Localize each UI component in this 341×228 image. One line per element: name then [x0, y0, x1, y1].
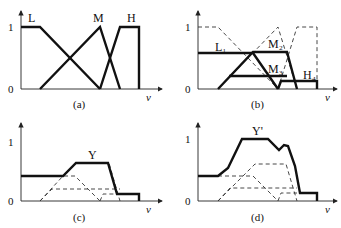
panel-c: 1 0 v Y (c) — [8, 123, 162, 224]
label-L: L — [28, 11, 35, 25]
tick-one: 1 — [185, 133, 191, 145]
aggregated-Y-prime — [198, 139, 317, 201]
panel-b: 1 0 v L₁ M₂ M₃ H₄ (b) — [185, 11, 337, 111]
axis-label-v: v — [146, 203, 151, 215]
component-H4-dashed — [278, 193, 297, 201]
label-M3: M₃ — [268, 62, 283, 76]
component-L1-dashed — [40, 176, 100, 201]
membership-L — [21, 27, 100, 89]
label-M: M — [93, 11, 104, 25]
axis-label-v: v — [325, 203, 330, 215]
component-L1-dashed — [218, 176, 278, 201]
component-M3-dashed — [40, 189, 120, 201]
caption-b: (b) — [251, 98, 264, 111]
caption-d: (d) — [251, 211, 264, 224]
caption-a: (a) — [73, 98, 86, 111]
tick-one: 1 — [8, 21, 14, 33]
tick-one: 1 — [8, 136, 14, 148]
clipped-L1 — [198, 53, 278, 89]
label-M2: M₂ — [268, 37, 283, 51]
tick-zero: 0 — [185, 83, 191, 95]
caption-c: (c) — [73, 211, 86, 224]
fuzzy-membership-figure: 1 0 v L M H (a) 1 0 v L₁ M₂ M₃ H₄ (b) — [0, 0, 341, 228]
tick-one: 1 — [185, 21, 191, 33]
label-H4: H₄ — [303, 68, 316, 82]
panel-a: 1 0 v L M H (a) — [8, 11, 162, 111]
tick-zero: 0 — [185, 195, 191, 207]
panel-d: 1 0 v Y' (d) — [185, 123, 337, 224]
axis-label-v: v — [325, 91, 330, 103]
label-Y: Y — [88, 148, 97, 162]
original-L-dashed — [198, 27, 278, 89]
aggregated-Y — [21, 163, 139, 201]
tick-zero: 0 — [8, 195, 14, 207]
membership-H — [100, 27, 139, 89]
label-L1: L₁ — [215, 40, 227, 54]
label-Y-prime: Y' — [252, 124, 263, 138]
component-M2-dashed — [218, 164, 297, 201]
component-M3-dashed — [218, 188, 297, 201]
tick-zero: 0 — [8, 83, 14, 95]
axis-label-v: v — [146, 91, 151, 103]
membership-M — [40, 27, 120, 89]
label-H: H — [127, 11, 136, 25]
